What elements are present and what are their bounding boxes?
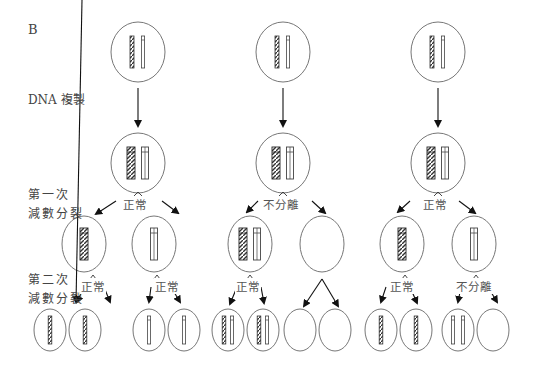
stage-label-meiosis2-line2: 減數分裂 xyxy=(28,289,84,306)
stage-label-replication: DNA 複製 xyxy=(28,90,85,107)
meiosis1-event-col1: 正常 xyxy=(122,196,148,212)
meiosis2-event-col3a: 正常 xyxy=(389,278,415,294)
meiosis-nondisjunction-diagram xyxy=(0,0,536,372)
cell-parent-1 xyxy=(111,22,165,82)
meiosis2-event-col3b: 不分離 xyxy=(455,278,493,294)
meiosis2-event-col2a: 正常 xyxy=(235,278,261,294)
panel-label: B xyxy=(28,22,38,37)
cell-replicated-1 xyxy=(111,133,165,193)
stage-label-meiosis2-line1: 第二次 xyxy=(28,270,70,287)
meiosis1-event-col2: 不分離 xyxy=(262,196,300,212)
meiosis1-event-col3: 正常 xyxy=(422,196,448,212)
meiosis2-event-col1b: 正常 xyxy=(154,278,180,294)
meiosis2-event-col1a: 正常 xyxy=(80,278,106,294)
cell-parent-3 xyxy=(411,22,465,82)
stage-label-meiosis1-line2: 減數分裂 xyxy=(28,204,84,221)
stage-label-meiosis1-line1: 第一次 xyxy=(28,185,70,202)
cell-parent-2 xyxy=(256,22,310,82)
cell-replicated-3 xyxy=(411,133,465,193)
cell-replicated-2 xyxy=(256,133,310,193)
